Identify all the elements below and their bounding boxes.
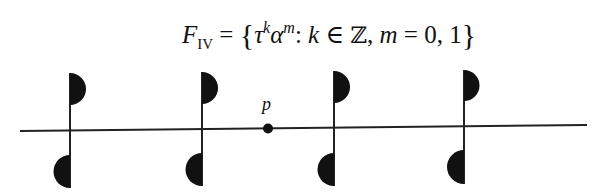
axis-line <box>20 125 587 131</box>
motif-1-bottom-half-disk-icon <box>54 155 70 188</box>
motif-3-top-half-disk-icon <box>334 71 350 103</box>
frieze-diagram <box>0 0 603 196</box>
motif-4-bottom-half-disk-icon <box>447 150 464 184</box>
motif-3-bottom-half-disk-icon <box>318 153 335 186</box>
motif-1-top-half-disk-icon <box>70 73 86 105</box>
motif-2-bottom-half-disk-icon <box>186 153 202 186</box>
point-p-dot <box>263 124 273 134</box>
point-p-label: p <box>262 94 271 115</box>
motif-4-top-half-disk-icon <box>464 70 479 101</box>
motif-2-top-half-disk-icon <box>202 72 218 104</box>
